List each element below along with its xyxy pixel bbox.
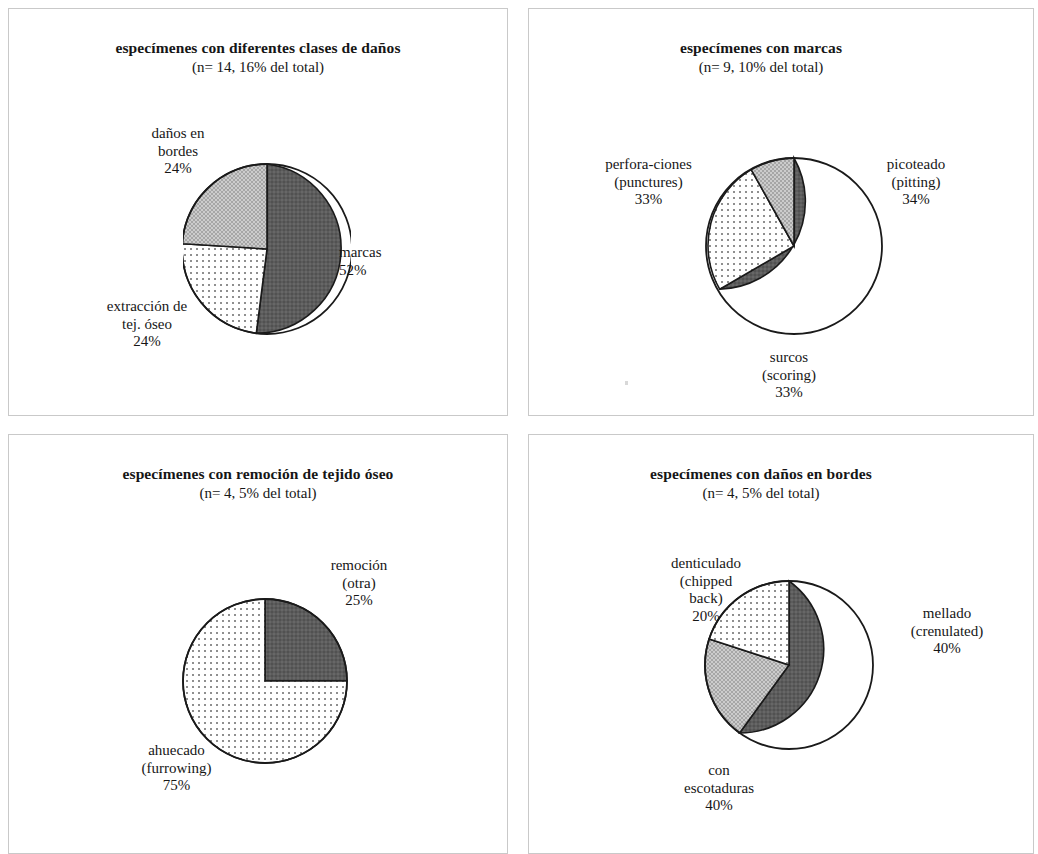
pie-label-ahuecado: ahuecado (furrowing) 75%: [109, 742, 244, 795]
pie-label-danos-bordes: daños en bordes 24%: [123, 125, 233, 178]
pie-damage-classes: [183, 157, 351, 337]
chart-panel-damage-classes: especímenes con diferentes clases de dañ…: [8, 8, 508, 416]
pie-slice-remocion: [265, 599, 347, 681]
pie-label-escotaduras: con escotaduras 40%: [649, 762, 789, 815]
chart-panel-bone-tissue-removal: especímenes con remoción de tejido óseo …: [8, 434, 508, 854]
pie-label-remocion: remoción (otra) 25%: [299, 557, 419, 610]
pie-label-perforaciones: perfora-ciones (punctures) 33%: [581, 156, 716, 209]
chart-subtitle: (n= 14, 16% del total): [9, 58, 507, 77]
chart-title: especímenes con remoción de tejido óseo: [9, 464, 507, 483]
chart-title: especímenes con daños en bordes: [528, 464, 1013, 483]
pie-label-surcos: surcos (scoring) 33%: [724, 349, 854, 402]
chart-panel-marks: especímenes con marcas (n= 9, 10% del to…: [528, 8, 1034, 416]
scan-speck: [625, 381, 628, 385]
pie-label-extraccion: extracción de tej. óseo 24%: [87, 298, 207, 351]
chart-subtitle: (n= 4, 5% del total): [9, 484, 507, 503]
chart-subtitle: (n= 4, 5% del total): [528, 484, 1013, 503]
chart-title: especímenes con diferentes clases de dañ…: [9, 38, 507, 57]
pie-label-mellado: mellado (crenulated) 40%: [877, 605, 1017, 658]
chart-title: especímenes con marcas: [528, 38, 1013, 57]
pie-label-picoteado: picoteado (pitting) 34%: [856, 156, 976, 209]
chart-subtitle: (n= 9, 10% del total): [528, 58, 1013, 77]
pie-label-marcas: marcas 52%: [339, 244, 469, 279]
pie-label-denticulado: denticulado (chipped back) 20%: [641, 555, 771, 625]
chart-panel-edge-damage: especímenes con daños en bordes (n= 4, 5…: [528, 434, 1034, 854]
